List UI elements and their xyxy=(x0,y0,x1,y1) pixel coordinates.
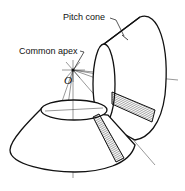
apex-point-label: O xyxy=(64,75,72,86)
common-apex-label: Common apex xyxy=(19,47,78,56)
pitch-cone-label: Pitch cone xyxy=(63,13,105,22)
bevel-gear-pitch-cones-diagram xyxy=(0,0,185,191)
